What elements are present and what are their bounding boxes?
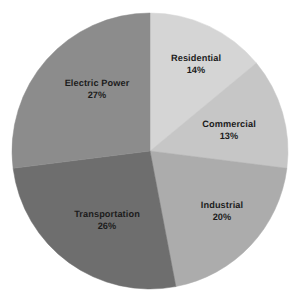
pie-slice-name-industrial: Industrial	[201, 200, 243, 212]
pie-slice-value-residential: 14%	[171, 65, 221, 77]
pie-slice-label-residential: Residential 14%	[171, 53, 221, 76]
pie-slice-name-transportation: Transportation	[74, 209, 140, 221]
pie-slice-label-electric-power: Electric Power 27%	[65, 78, 130, 101]
pie-chart: Residential 14% Commercial 13% Industria…	[0, 0, 301, 308]
pie-chart-canvas	[0, 0, 301, 308]
pie-slice-value-industrial: 20%	[201, 212, 243, 224]
pie-slice-name-commercial: Commercial	[202, 119, 256, 131]
pie-slices-group	[12, 13, 288, 289]
pie-slice-label-transportation: Transportation 26%	[74, 209, 140, 232]
pie-slice-name-residential: Residential	[171, 53, 221, 65]
pie-slice-label-industrial: Industrial 20%	[201, 200, 243, 223]
pie-slice-value-transportation: 26%	[74, 221, 140, 233]
pie-slice-name-electric-power: Electric Power	[65, 78, 130, 90]
pie-slice-value-electric-power: 27%	[65, 90, 130, 102]
pie-slice-label-commercial: Commercial 13%	[202, 119, 256, 142]
pie-slice-value-commercial: 13%	[202, 131, 256, 143]
